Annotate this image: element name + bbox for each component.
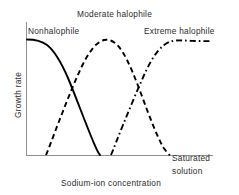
- annotation-saturated-line2: solution: [172, 166, 203, 176]
- y-axis-label: Growth rate: [13, 65, 23, 125]
- growth-rate-vs-sodium-concentration-chart: Moderate halophile Nonhalophile Extreme …: [0, 0, 239, 195]
- x-axis-label: Sodium-ion concentration: [61, 178, 161, 188]
- curve-moderate-halophile: [46, 40, 170, 155]
- annotation-moderate-halophile: Moderate halophile: [77, 9, 152, 19]
- annotation-nonhalophile: Nonhalophile: [28, 26, 79, 36]
- annotation-saturated-line1: Saturated: [172, 153, 210, 163]
- curve-nonhalophile: [27, 40, 100, 156]
- annotation-extreme-halophile: Extreme halophile: [144, 26, 215, 36]
- curve-extreme-halophile: [111, 40, 212, 155]
